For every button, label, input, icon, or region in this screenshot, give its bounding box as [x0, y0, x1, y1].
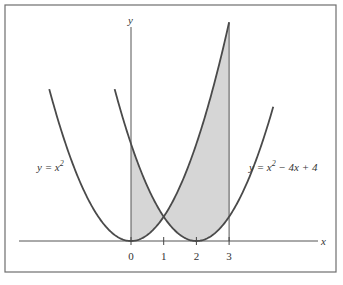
x-tick-label-1: 1	[161, 250, 167, 262]
x-tick-label-2: 2	[194, 250, 200, 262]
parabola-shifted-label: y = x2 − 4x + 4	[248, 159, 318, 173]
y-axis-label: y	[127, 14, 133, 26]
figure-frame	[5, 5, 336, 272]
x-axis-label: x	[320, 235, 326, 247]
area-between-curves-figure: x y 0123 y = x2y = x2 − 4x + 4	[0, 0, 343, 285]
parabola-x-squared-label: y = x2	[36, 159, 64, 173]
x-tick-label-3: 3	[226, 250, 232, 262]
x-tick-label-0: 0	[128, 250, 134, 262]
